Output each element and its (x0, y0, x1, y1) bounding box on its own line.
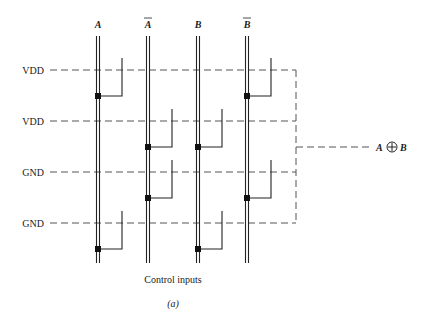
output-right-operand: B (399, 142, 407, 153)
caption-control-inputs: Control inputs (144, 274, 202, 285)
rail-labels: A A B B (94, 18, 251, 30)
output-label: A B (375, 142, 407, 153)
supply-label-vdd-1: VDD (22, 65, 44, 76)
supply-labels: VDD VDD GND GND (22, 65, 44, 229)
rail-label-a: A (94, 19, 102, 30)
xor-switch-network-diagram: A A B B VDD VDD GND GND (0, 0, 426, 328)
supply-label-gnd-1: GND (22, 167, 44, 178)
rail-b-bar (246, 36, 249, 263)
rail-label-b: B (194, 19, 202, 30)
supply-label-gnd-2: GND (22, 218, 44, 229)
supply-label-vdd-2: VDD (22, 116, 44, 127)
rail-label-a-bar: A (144, 19, 152, 30)
rail-label-b-bar: B (243, 19, 251, 30)
output-left-operand: A (375, 142, 383, 153)
subfigure-label: (a) (167, 298, 179, 310)
